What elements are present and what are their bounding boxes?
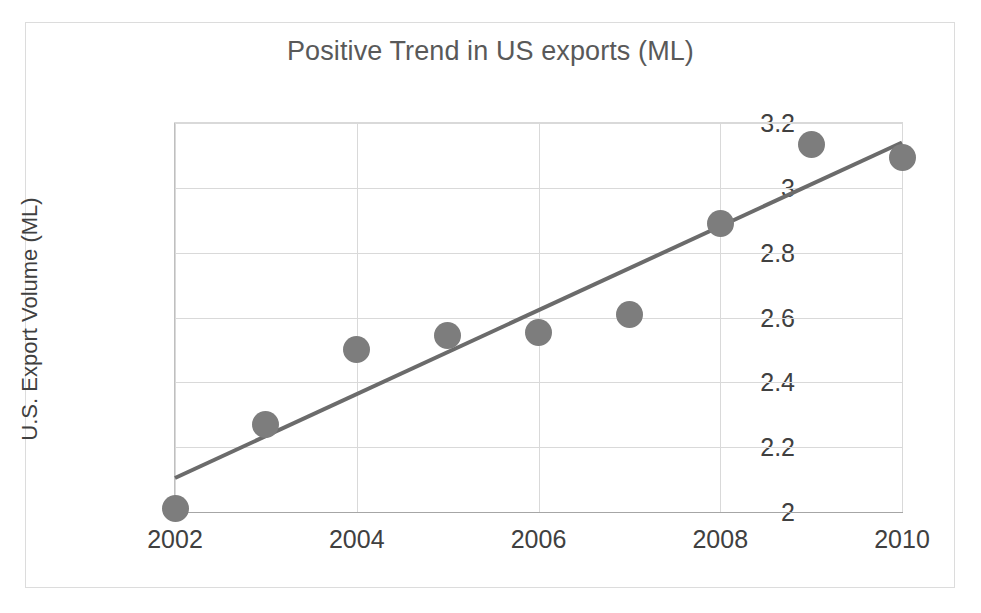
data-point-marker [434,322,461,349]
x-axis-tick-label: 2006 [469,525,609,554]
plot-area [175,123,902,512]
x-axis-tick-label: 2010 [832,525,972,554]
data-point-marker [707,210,734,237]
trendline [175,123,902,512]
plot-right-border [902,123,903,512]
x-axis-tick-label: 2008 [650,525,790,554]
x-axis-tick-label: 2004 [287,525,427,554]
data-point-marker [616,301,643,328]
data-point-marker [525,319,552,346]
data-point-marker [889,144,916,171]
trendline-segment [175,142,902,478]
data-point-marker [798,131,825,158]
y-axis-title: U.S. Export Volume (ML) [17,159,43,479]
x-axis-line [174,512,903,513]
x-axis-tick-label: 2002 [105,525,245,554]
chart-title: Positive Trend in US exports (ML) [0,36,981,67]
chart-figure: Positive Trend in US exports (ML) U.S. E… [0,0,981,613]
data-point-marker [162,495,189,522]
